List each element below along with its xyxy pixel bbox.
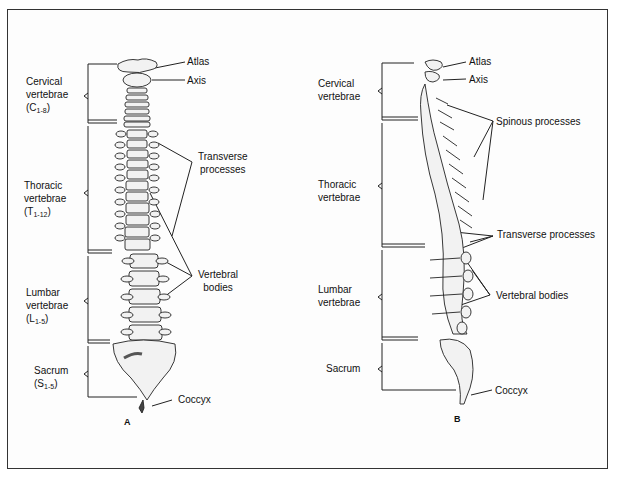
panel-b-coccyx-label: Coccyx <box>495 384 528 397</box>
panel-a-sacrum-label: Sacrum (S1-5) <box>34 364 68 393</box>
panel-a-atlas-label: Atlas <box>187 55 209 68</box>
range-sub: 1-5 <box>44 383 54 390</box>
panel-b-transverse-label: Transverse processes <box>497 228 595 241</box>
region-name: Lumbar <box>26 286 68 299</box>
range-sub: 1-8 <box>37 107 47 114</box>
panel-a-letter: A <box>124 417 131 427</box>
region-name: Cervical <box>318 77 360 90</box>
range-suffix: ) <box>47 206 50 217</box>
panel-a-cervical-label: Cervical vertebrae (C1-8) <box>26 75 68 117</box>
panel-a-lumbar-label: Lumbar vertebrae (L1-5) <box>26 286 68 328</box>
range-prefix: (S <box>34 378 44 389</box>
region-name: Thoracic <box>318 178 360 191</box>
panel-b-axis-label: Axis <box>469 73 488 86</box>
region-range: (L1-5) <box>26 312 68 328</box>
range-suffix: ) <box>47 102 50 113</box>
range-suffix: ) <box>45 313 48 324</box>
panel-a-vertebral-label: Vertebral bodies <box>198 268 238 294</box>
range-sub: 1-5 <box>35 318 45 325</box>
panel-b-atlas-label: Atlas <box>469 55 491 68</box>
callout-line1: Transverse <box>198 150 248 163</box>
panel-b-sacrum-label: Sacrum <box>326 362 360 375</box>
region-range: (T1-12) <box>24 205 66 221</box>
region-range: (S1-5) <box>34 377 68 393</box>
panel-b-vertebral-label: Vertebral bodies <box>496 289 568 302</box>
range-prefix: (C <box>26 102 37 113</box>
range-suffix: ) <box>54 378 57 389</box>
region-range: (C1-8) <box>26 101 68 117</box>
callout-line2: processes <box>198 163 248 176</box>
callout-line1: Vertebral <box>198 268 238 281</box>
panel-b-letter: B <box>454 414 461 424</box>
panel-a-thoracic-label: Thoracic vertebrae (T1-12) <box>24 179 66 221</box>
panel-b-cervical-label: Cervical vertebrae <box>318 77 360 103</box>
region-name: Sacrum <box>34 364 68 377</box>
region-line2: vertebrae <box>318 296 360 309</box>
callout-line2: bodies <box>198 281 238 294</box>
region-line2: vertebrae <box>318 90 360 103</box>
panel-a-coccyx-label: Coccyx <box>178 393 211 406</box>
panel-a-transverse-label: Transverse processes <box>198 150 248 176</box>
region-name: Cervical <box>26 75 68 88</box>
range-sub: 1-12 <box>33 211 47 218</box>
region-name: Lumbar <box>318 283 360 296</box>
panel-b-thoracic-label: Thoracic vertebrae <box>318 178 360 204</box>
panel-b-lumbar-label: Lumbar vertebrae <box>318 283 360 309</box>
region-name: Thoracic <box>24 179 66 192</box>
region-line2: vertebrae <box>318 191 360 204</box>
region-name: Sacrum <box>326 362 360 375</box>
region-line2: vertebrae <box>24 192 66 205</box>
region-line2: vertebrae <box>26 88 68 101</box>
range-prefix: (L <box>26 313 35 324</box>
panel-a-axis-label: Axis <box>187 74 206 87</box>
region-line2: vertebrae <box>26 299 68 312</box>
panel-b-spinous-label: Spinous processes <box>496 115 581 128</box>
